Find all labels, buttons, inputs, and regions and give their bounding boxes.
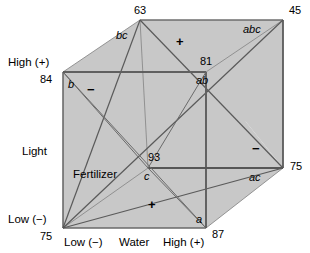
sign-plus-top: + <box>176 35 184 48</box>
corner-effect-ab: ab <box>196 75 208 86</box>
corner-effect-b: b <box>68 79 74 90</box>
axis-light-low-label: Low (−) <box>8 214 47 226</box>
corner-value-75-one: 75 <box>40 231 52 242</box>
axis-water-high-label: High (+) <box>163 237 204 249</box>
axis-fertilizer-title: Fertilizer <box>73 169 117 181</box>
axis-light-title: Light <box>22 146 47 158</box>
axis-water-title: Water <box>119 237 149 249</box>
corner-effect-ac: ac <box>249 172 261 183</box>
sign-plus-bottom: + <box>148 198 156 211</box>
corner-value-81: 81 <box>200 56 212 67</box>
corner-value-75-ac: 75 <box>290 161 302 172</box>
corner-value-84: 84 <box>40 74 52 85</box>
axis-light-high-label: High (+) <box>8 57 49 69</box>
corner-effect-bc: bc <box>116 30 128 41</box>
cube-plot-figure: 63 bc 45 abc 84 b 81 ab 93 c 75 ac 87 a … <box>0 0 310 253</box>
sign-minus-left: − <box>87 83 95 96</box>
corner-value-93: 93 <box>148 152 160 163</box>
corner-effect-a: a <box>196 214 202 225</box>
sign-minus-right: − <box>252 142 260 155</box>
corner-effect-c: c <box>144 171 150 182</box>
corner-value-45: 45 <box>289 5 301 16</box>
corner-value-87: 87 <box>212 229 224 240</box>
corner-effect-abc: abc <box>243 24 261 35</box>
axis-water-low-label: Low (−) <box>64 237 103 249</box>
corner-value-63: 63 <box>134 5 146 16</box>
